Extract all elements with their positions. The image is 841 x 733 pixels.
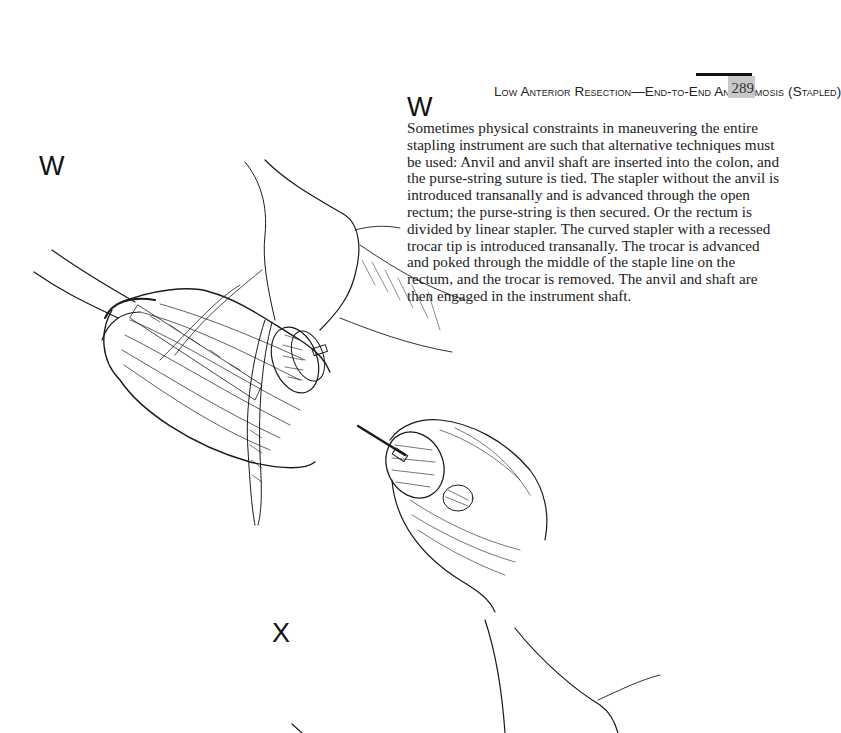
colon-with-anvil-drawing (34, 160, 465, 525)
stapler-trocar-drawing (292, 420, 660, 733)
